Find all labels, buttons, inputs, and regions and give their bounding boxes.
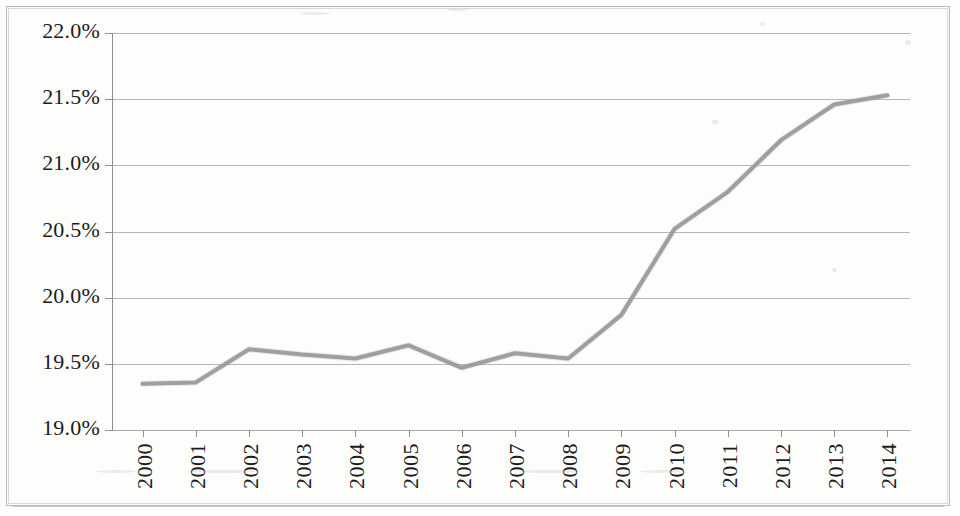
y-tick-label: 19.0%	[8, 415, 100, 441]
x-tick-mark	[675, 430, 676, 437]
gridline-22	[112, 33, 910, 34]
x-tick-label-2013: 2013	[823, 443, 849, 489]
x-tick-label-2001: 2001	[185, 443, 211, 489]
scan-speckle	[300, 12, 330, 15]
x-tick-mark	[621, 430, 622, 437]
data-line-scan-noise	[143, 95, 888, 384]
scan-speckle	[760, 22, 765, 26]
y-tick-label: 19.5%	[8, 349, 100, 375]
page-bottom-rule	[12, 506, 944, 507]
x-tick-label-2000: 2000	[132, 443, 158, 489]
y-tick-label: 20.0%	[8, 283, 100, 309]
y-tick-mark	[105, 364, 112, 365]
scan-speckle	[832, 268, 837, 272]
gridline-21-5	[112, 99, 910, 100]
x-tick-mark	[515, 430, 516, 437]
x-tick-mark	[887, 430, 888, 437]
gridline-20-5	[112, 232, 910, 233]
x-tick-mark	[302, 430, 303, 437]
gridline-19	[112, 430, 910, 431]
x-tick-mark	[462, 430, 463, 437]
series-layer	[0, 0, 960, 516]
scan-speckle	[448, 8, 468, 11]
x-tick-label-2002: 2002	[238, 443, 264, 489]
y-axis-line	[112, 33, 113, 431]
x-tick-label-2012: 2012	[770, 443, 796, 489]
x-tick-mark	[568, 430, 569, 437]
y-tick-mark	[105, 33, 112, 34]
y-tick-label: 21.0%	[8, 150, 100, 176]
y-tick-label: 21.5%	[8, 84, 100, 110]
y-axis-labels: 22.0%21.5%21.0%20.5%20.0%19.5%19.0%	[0, 0, 100, 516]
x-tick-mark	[196, 430, 197, 437]
x-tick-mark	[409, 430, 410, 437]
x-tick-label-2011: 2011	[717, 443, 743, 488]
x-tick-label-2010: 2010	[664, 443, 690, 489]
y-tick-mark	[105, 232, 112, 233]
y-tick-mark	[105, 430, 112, 431]
line-chart: 22.0%21.5%21.0%20.5%20.0%19.5%19.0% 2000…	[0, 0, 960, 516]
x-tick-label-2005: 2005	[398, 443, 424, 489]
x-tick-label-2009: 2009	[610, 443, 636, 489]
x-tick-label-2003: 2003	[291, 443, 317, 489]
x-tick-mark	[143, 430, 144, 437]
data-line-series-1	[143, 95, 888, 384]
x-tick-mark	[355, 430, 356, 437]
x-tick-mark	[834, 430, 835, 437]
x-tick-label-2006: 2006	[451, 443, 477, 489]
scan-speckle	[905, 40, 911, 45]
y-tick-label: 22.0%	[8, 18, 100, 44]
gridline-21	[112, 165, 910, 166]
x-tick-mark	[728, 430, 729, 437]
scan-speckle	[712, 120, 718, 124]
y-tick-label: 20.5%	[8, 217, 100, 243]
x-tick-mark	[781, 430, 782, 437]
y-tick-mark	[105, 165, 112, 166]
x-tick-label-2014: 2014	[876, 443, 902, 489]
page-border-outer	[6, 6, 950, 506]
y-tick-mark	[105, 298, 112, 299]
x-tick-label-2004: 2004	[344, 443, 370, 489]
scan-speckle	[96, 470, 136, 473]
x-tick-mark	[249, 430, 250, 437]
y-tick-mark	[105, 99, 112, 100]
gridline-20	[112, 298, 910, 299]
x-tick-label-2007: 2007	[504, 443, 530, 489]
x-tick-label-2008: 2008	[557, 443, 583, 489]
gridline-19-5	[112, 364, 910, 365]
